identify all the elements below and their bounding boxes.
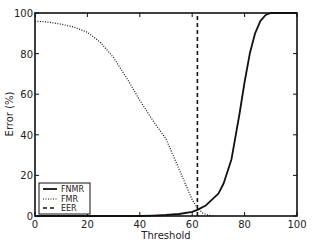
x-tick-label: 100 [287,219,306,230]
y-tick-label: 20 [20,170,33,181]
legend-fmr-label: FMR [61,195,79,204]
x-tick-label: 20 [81,219,94,230]
y-axis-label: Error (%) [4,91,15,136]
y-tick-label: 0 [27,211,33,222]
error-vs-threshold-chart: 020406080100020406080100 Threshold Error… [0,0,318,246]
x-tick-label: 60 [186,219,199,230]
y-tick-label: 40 [20,130,33,141]
x-tick-label: 80 [238,219,251,230]
legend-eer-label: EER [61,204,77,213]
y-tick-label: 100 [14,8,33,19]
x-axis-label: Threshold [140,230,190,241]
legend-fnmr-label: FNMR [61,185,84,194]
legend: FNMR FMR EER [39,183,90,214]
y-tick-label: 60 [20,89,33,100]
y-tick-label: 80 [20,49,33,60]
x-tick-label: 40 [133,219,146,230]
